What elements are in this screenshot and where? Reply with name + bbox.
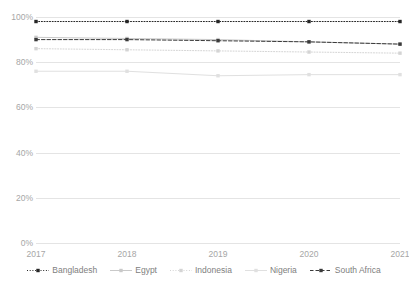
data-point-marker: [216, 20, 219, 23]
data-point-marker: [125, 20, 128, 23]
legend-item-label: Egypt: [135, 266, 157, 275]
legend-item-bangladesh[interactable]: Bangladesh: [27, 266, 97, 275]
series-nigeria: [34, 70, 401, 78]
legend-item-south-africa[interactable]: South Africa: [310, 266, 381, 275]
legend-swatch-icon: [245, 266, 267, 275]
legend-item-nigeria[interactable]: Nigeria: [245, 266, 297, 275]
data-point-marker: [34, 20, 37, 23]
legend-swatch-icon: [310, 266, 332, 275]
data-point-marker: [307, 40, 310, 43]
data-point-marker: [398, 73, 401, 76]
data-point-marker: [216, 74, 219, 77]
series-indonesia: [34, 47, 401, 55]
data-point-marker: [125, 70, 128, 73]
data-point-marker: [34, 38, 37, 41]
data-point-marker: [216, 39, 219, 42]
legend-swatch-icon: [170, 266, 192, 275]
data-point-marker: [34, 47, 37, 50]
legend-swatch-icon: [110, 266, 132, 275]
data-point-marker: [216, 49, 219, 52]
data-point-marker: [307, 73, 310, 76]
legend-item-egypt[interactable]: Egypt: [110, 266, 157, 275]
legend-swatch-icon: [27, 266, 49, 275]
data-point-marker: [125, 48, 128, 51]
data-point-marker: [34, 70, 37, 73]
legend-item-label: South Africa: [335, 266, 381, 275]
series-south-africa: [34, 38, 401, 46]
data-point-marker: [398, 20, 401, 23]
series-bangladesh: [34, 20, 401, 23]
legend-item-label: Nigeria: [270, 266, 297, 275]
data-point-marker: [307, 50, 310, 53]
chart-legend: BangladeshEgyptIndonesiaNigeriaSouth Afr…: [0, 266, 408, 275]
data-point-marker: [125, 38, 128, 41]
legend-item-label: Bangladesh: [52, 266, 97, 275]
legend-item-label: Indonesia: [195, 266, 232, 275]
data-point-marker: [398, 42, 401, 45]
data-point-marker: [307, 20, 310, 23]
data-point-marker: [398, 51, 401, 54]
legend-item-indonesia[interactable]: Indonesia: [170, 266, 232, 275]
